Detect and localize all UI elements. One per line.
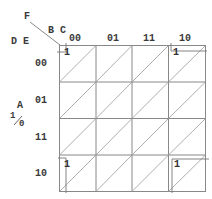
row-variables-de: D E [11,37,29,47]
column-header-00: 00 [69,34,81,44]
column-variables-bc: B C [48,26,66,36]
row-header-11: 11 [35,133,47,143]
column-header-11: 11 [143,34,155,44]
cell-r3-c3: 1 [174,160,180,170]
cell-r3-c0: 1 [64,160,70,170]
karnaugh-map-grid [0,0,212,199]
corner-variable-f: F [24,12,30,22]
row-header-01: 01 [35,96,47,106]
column-header-10: 10 [179,34,191,44]
cell-r0-c3: 1 [173,48,179,58]
row-header-00: 00 [35,59,47,69]
cell-r0-c0: 1 [64,48,70,58]
side-variable-a: A [17,101,23,111]
column-header-01: 01 [107,34,119,44]
side-value-0: 0 [19,120,24,129]
row-header-10: 10 [35,169,47,179]
